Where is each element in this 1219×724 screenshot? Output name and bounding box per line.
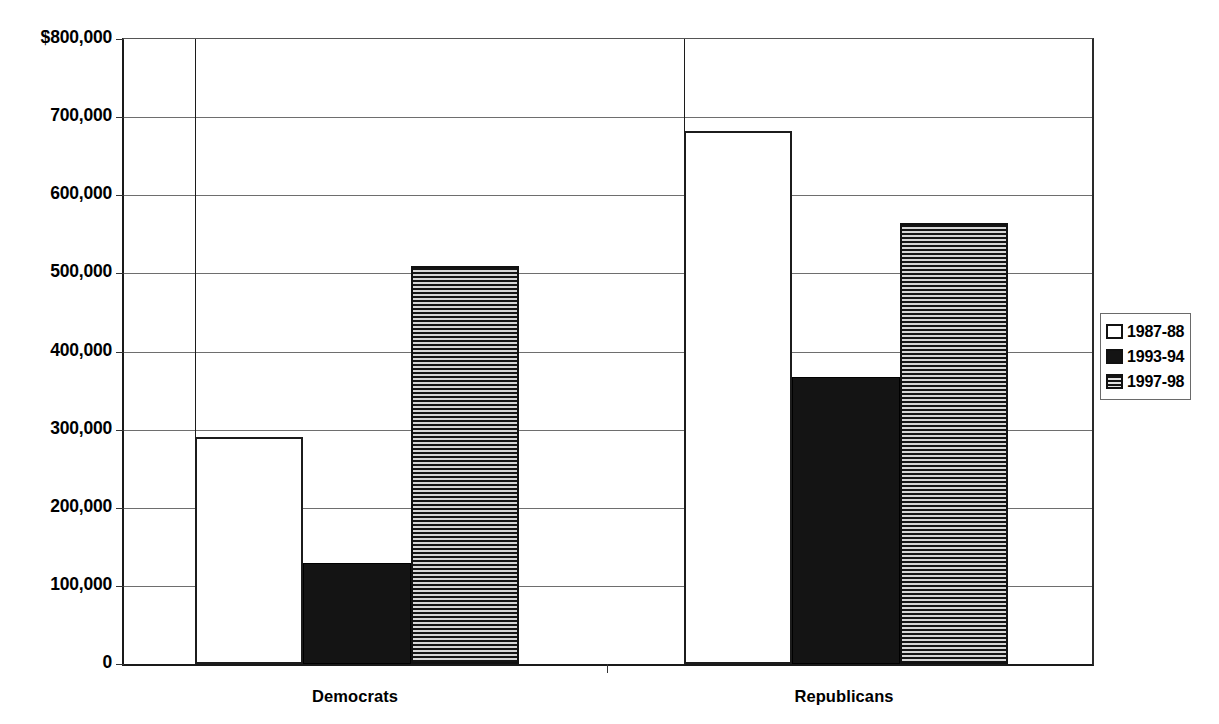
y-axis-tick-label: 300,000 — [50, 420, 112, 438]
y-axis-tick-mark — [116, 352, 124, 353]
legend: 1987-881993-941997-98 — [1100, 313, 1191, 400]
legend-swatch-icon — [1106, 374, 1123, 389]
legend-swatch-icon — [1106, 349, 1123, 364]
plot-area — [122, 38, 1094, 666]
y-axis-tick-label: 600,000 — [50, 185, 112, 203]
legend-item-label: 1993-94 — [1127, 349, 1184, 365]
y-axis-tick-mark — [116, 586, 124, 587]
bar-republicans-1997-98 — [900, 223, 1008, 664]
legend-swatch-icon — [1106, 324, 1123, 339]
bar-chart: $800,000700,000600,000500,000400,000300,… — [0, 0, 1219, 724]
y-axis-tick-mark — [116, 430, 124, 431]
y-axis-tick-mark — [116, 508, 124, 509]
y-axis-tick-mark — [116, 117, 124, 118]
legend-item: 1997-98 — [1106, 369, 1184, 394]
legend-item-label: 1987-88 — [1127, 324, 1184, 340]
gridline — [124, 195, 1092, 196]
y-axis-tick-label: 500,000 — [50, 263, 112, 281]
y-axis-tick-label: 700,000 — [50, 107, 112, 125]
y-axis-tick-mark — [116, 195, 124, 196]
y-axis-tick-label: 200,000 — [50, 498, 112, 516]
gridline — [124, 117, 1092, 118]
bar-democrats-1997-98 — [411, 266, 519, 664]
y-axis-tick-label: 0 — [102, 654, 112, 672]
legend-item: 1993-94 — [1106, 344, 1184, 369]
legend-item: 1987-88 — [1106, 319, 1184, 344]
x-axis-category-label: Democrats — [235, 688, 475, 705]
bar-republicans-1993-94 — [792, 377, 900, 665]
y-axis-tick-mark — [116, 273, 124, 274]
bar-republicans-1987-88 — [684, 131, 792, 664]
bar-democrats-1993-94 — [303, 563, 411, 664]
y-axis-tick-label: $800,000 — [41, 29, 112, 47]
legend-item-label: 1997-98 — [1127, 374, 1184, 390]
x-axis-category-label: Republicans — [724, 688, 964, 705]
y-axis-tick-mark — [116, 664, 124, 665]
y-axis-label-group: $800,000700,000600,000500,000400,000300,… — [0, 0, 112, 724]
bar-democrats-1987-88 — [195, 437, 303, 664]
y-axis-tick-label: 400,000 — [50, 342, 112, 360]
y-axis-tick-label: 100,000 — [50, 576, 112, 594]
y-axis-tick-mark — [116, 39, 124, 40]
category-separator-tick — [607, 664, 608, 673]
